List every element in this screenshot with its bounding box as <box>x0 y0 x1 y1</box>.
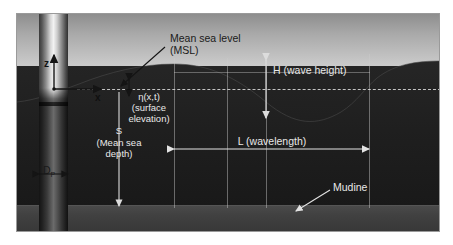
pile-diameter-symbol: D <box>43 164 51 176</box>
sea-depth-label-line3: depth) <box>79 149 159 160</box>
diagram-canvas: Mean sea level (MSL) η(x,t) (surface ele… <box>0 0 453 245</box>
pile-diameter-label: DP <box>43 165 55 179</box>
wave-height-label: H (wave height) <box>273 65 347 77</box>
annotation-overlay <box>17 14 440 232</box>
mudline-label: Mudine <box>333 182 367 194</box>
axis-origin-dot <box>52 87 56 91</box>
sea-depth-label-line1: S <box>83 126 155 137</box>
figure-frame: Mean sea level (MSL) η(x,t) (surface ele… <box>16 13 440 232</box>
msl-label-line2: (MSL) <box>170 45 199 57</box>
mudline-leader-line <box>296 190 330 211</box>
x-axis-label: x <box>95 92 101 103</box>
z-axis-label: z <box>44 58 49 69</box>
msl-leader-line <box>121 47 165 86</box>
msl-label-line1: Mean sea level <box>170 33 241 45</box>
eta-label-line3: elevation) <box>113 114 185 125</box>
pile-diameter-subscript: P <box>51 171 56 178</box>
wavelength-label: L (wavelength) <box>202 136 342 148</box>
